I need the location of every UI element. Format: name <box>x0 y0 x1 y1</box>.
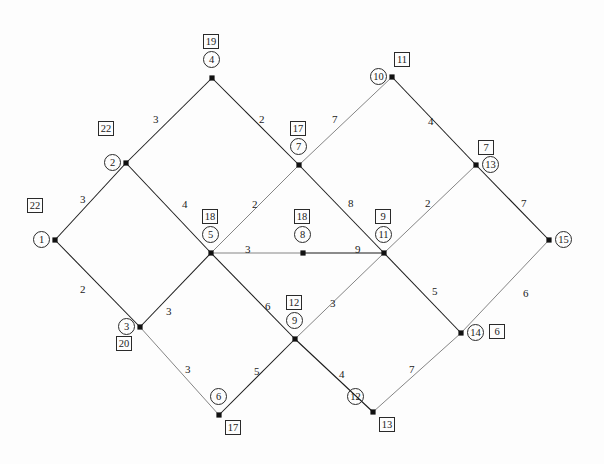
node-distance-label[interactable]: 9 <box>375 209 391 224</box>
graph-vertex-dot <box>216 412 221 417</box>
node-id-badge[interactable]: 2 <box>104 154 121 171</box>
graph-diagram: 3234332236578934425776122222320419518617… <box>0 0 604 464</box>
node-id-badge[interactable]: 12 <box>347 388 364 405</box>
graph-vertex-dot <box>292 336 297 341</box>
edge-weight-label: 2 <box>252 198 258 210</box>
graph-edge <box>295 253 384 339</box>
graph-edge <box>140 253 211 327</box>
edge-weight-label: 6 <box>265 300 271 312</box>
node-distance-label[interactable]: 18 <box>202 209 218 224</box>
graph-edge <box>384 165 476 253</box>
edge-weight-label: 3 <box>166 305 172 317</box>
node-id-badge[interactable]: 15 <box>555 231 572 248</box>
graph-vertex-dot <box>208 250 213 255</box>
graph-edge <box>126 78 212 163</box>
node-id-badge[interactable]: 4 <box>203 51 220 68</box>
node-id-badge[interactable]: 8 <box>294 226 311 243</box>
node-id-badge[interactable]: 14 <box>467 324 484 341</box>
graph-vertex-dot <box>381 250 386 255</box>
graph-edge <box>219 339 295 415</box>
node-id-badge[interactable]: 1 <box>33 231 50 248</box>
edge-weight-label: 2 <box>425 197 431 209</box>
edge-weight-label: 9 <box>355 243 361 255</box>
graph-edge <box>211 253 295 339</box>
node-id-badge[interactable]: 13 <box>482 156 499 173</box>
graph-vertex-dot <box>546 237 551 242</box>
node-distance-label[interactable]: 7 <box>478 140 494 155</box>
edge-weight-label: 2 <box>259 113 265 125</box>
edge-weight-label: 3 <box>245 243 251 255</box>
node-distance-label[interactable]: 22 <box>27 198 43 213</box>
graph-vertex-dot <box>137 324 142 329</box>
node-distance-label[interactable]: 18 <box>294 209 310 224</box>
node-distance-label[interactable]: 22 <box>98 121 114 136</box>
node-id-badge[interactable]: 5 <box>202 226 219 243</box>
edge-weight-label: 4 <box>339 368 345 380</box>
graph-edge <box>140 327 219 415</box>
edge-weight-label: 7 <box>409 363 415 375</box>
graph-vertex-dot <box>370 409 375 414</box>
node-id-badge[interactable]: 10 <box>370 68 387 85</box>
edge-weight-label: 2 <box>80 283 86 295</box>
graph-vertex-dot <box>52 237 57 242</box>
node-distance-label[interactable]: 12 <box>286 295 302 310</box>
graph-edge <box>212 78 299 165</box>
node-id-badge[interactable]: 6 <box>210 388 227 405</box>
graph-vertex-dot <box>458 330 463 335</box>
edge-weight-label: 6 <box>523 287 529 299</box>
graph-edge <box>461 240 549 333</box>
edge-weight-label: 7 <box>521 197 527 209</box>
graph-edge <box>126 163 211 253</box>
edge-weight-label: 4 <box>428 115 434 127</box>
edge-weight-label: 3 <box>185 363 191 375</box>
graph-edge <box>476 165 549 240</box>
graph-vertex-dot <box>123 160 128 165</box>
node-distance-label[interactable]: 13 <box>379 417 395 432</box>
node-distance-label[interactable]: 6 <box>489 324 505 339</box>
edge-weight-label: 3 <box>80 193 86 205</box>
graph-vertex-dot <box>296 162 301 167</box>
edge-weight-label: 8 <box>348 197 354 209</box>
edge-weight-label: 3 <box>330 297 336 309</box>
node-id-badge[interactable]: 3 <box>118 318 135 335</box>
graph-edge <box>55 240 140 327</box>
edge-weight-label: 5 <box>254 365 260 377</box>
edge-weight-label: 3 <box>153 113 159 125</box>
node-distance-label[interactable]: 17 <box>290 121 306 136</box>
edge-weight-label: 5 <box>432 285 438 297</box>
node-id-badge[interactable]: 9 <box>286 312 303 329</box>
graph-edge <box>384 253 461 333</box>
node-id-badge[interactable]: 7 <box>290 138 307 155</box>
graph-edge <box>299 77 392 165</box>
graph-edge <box>55 163 126 240</box>
node-distance-label[interactable]: 17 <box>225 420 241 435</box>
graph-vertex-dot <box>389 74 394 79</box>
node-distance-label[interactable]: 20 <box>116 336 132 351</box>
graph-edge <box>392 77 476 165</box>
node-distance-label[interactable]: 11 <box>394 52 410 67</box>
edge-weight-label: 4 <box>182 198 188 210</box>
graph-vertex-dot <box>473 162 478 167</box>
graph-edge <box>373 333 461 412</box>
node-id-badge[interactable]: 11 <box>375 226 392 243</box>
graph-vertex-dot <box>209 75 214 80</box>
node-distance-label[interactable]: 19 <box>203 34 219 49</box>
graph-vertex-dot <box>300 250 305 255</box>
edge-weight-label: 7 <box>332 113 338 125</box>
graph-edge <box>299 165 384 253</box>
